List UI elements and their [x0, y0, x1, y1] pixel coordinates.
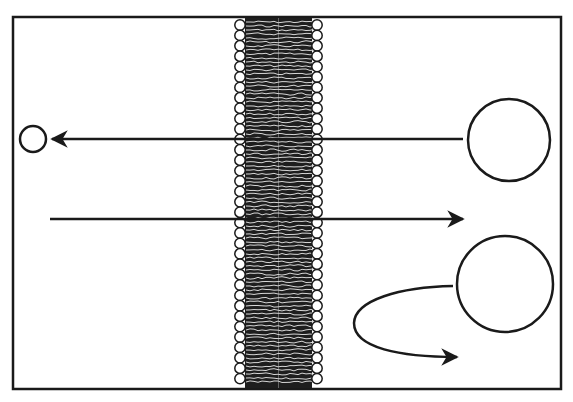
membrane-diagram — [0, 0, 573, 402]
lipid-bilayer — [235, 18, 322, 388]
repelled-loop-arrow — [354, 286, 457, 357]
large-molecule-top — [468, 99, 550, 181]
small-molecule-left — [20, 126, 46, 152]
large-molecule-bottom — [457, 236, 553, 332]
